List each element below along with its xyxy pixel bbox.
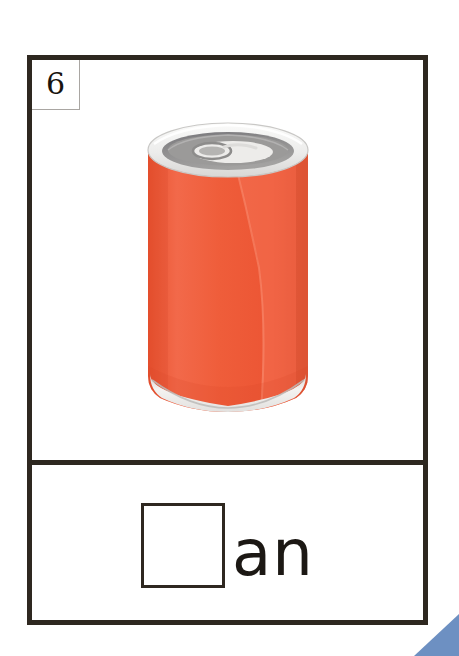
answer-blank-box[interactable]	[141, 503, 225, 588]
can-pull-tab-hole	[199, 146, 225, 155]
answer-row: an	[141, 503, 314, 588]
can-lid-group	[148, 123, 308, 177]
picture-pane	[32, 60, 423, 460]
worksheet-card: 6	[27, 55, 428, 625]
answer-pane: an	[32, 465, 423, 620]
can-pull-tab-group	[193, 141, 273, 163]
corner-fold-triangle	[414, 614, 459, 656]
word-ending-label: an	[232, 525, 314, 583]
soda-can-illustration	[138, 118, 318, 418]
